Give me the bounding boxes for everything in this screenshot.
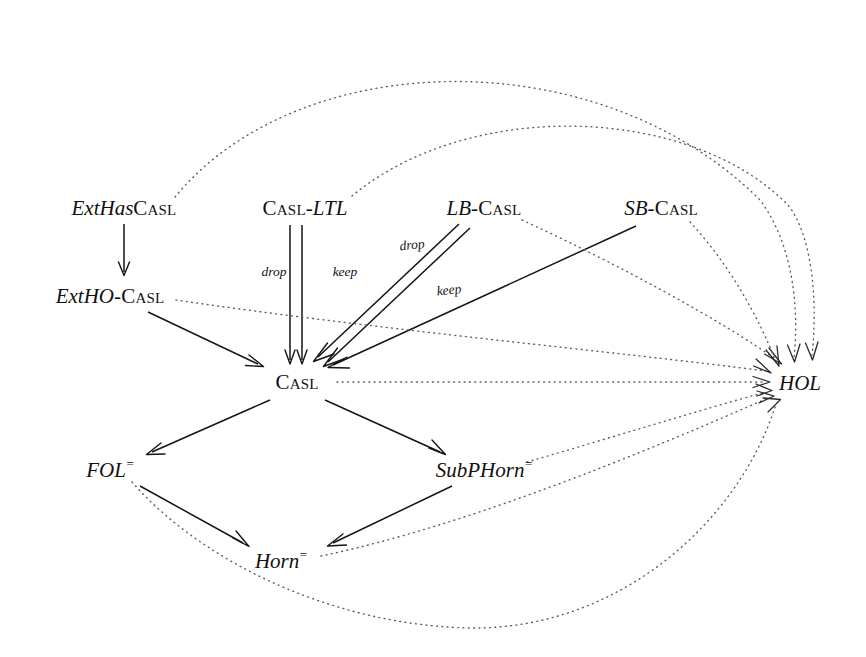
node-lb-casl-suffix: -Casl: [471, 196, 521, 220]
edge-subphorn-eq-to-hol: [527, 384, 772, 462]
edge-label-lb-casl-drop: drop: [399, 237, 425, 253]
edge-casl-ltl-keep-to-casl: [297, 225, 307, 364]
edge-ext-has-casl-to-ext-ho-casl: [119, 224, 130, 276]
node-sb-casl-suffix: -Casl: [647, 196, 697, 220]
edge-label-casl-ltl-drop: drop: [261, 265, 286, 279]
edge-casl-to-fol-eq: [147, 400, 271, 455]
edge-layer: [0, 0, 866, 657]
node-horn-eq-prefix: Horn: [255, 549, 299, 573]
edge-fol-eq-to-horn-eq: [140, 486, 249, 547]
node-lb-casl[interactable]: LB-Casl: [447, 198, 522, 219]
node-casl-ltl-suffix: -LTL: [306, 196, 348, 220]
node-sb-casl[interactable]: SB-Casl: [624, 198, 698, 219]
edge-casl-to-subphorn-eq: [325, 400, 446, 455]
node-ext-has-casl-suffix: Casl: [133, 196, 176, 220]
node-horn-eq-superscript: =: [300, 547, 307, 562]
node-ext-ho-casl-suffix: -Casl: [114, 284, 164, 308]
node-casl-ltl-prefix: Casl: [263, 196, 306, 220]
edge-ext-ho-casl-to-casl: [148, 312, 264, 367]
edge-fol-eq-to-hol: [132, 398, 781, 628]
node-casl[interactable]: Casl: [275, 372, 318, 393]
edge-casl-to-hol: [337, 377, 770, 388]
edge-lb-casl-to-hol: [522, 220, 782, 364]
node-lb-casl-prefix: LB: [447, 196, 472, 220]
edge-label-lb-casl-keep: keep: [436, 282, 462, 298]
edge-label-casl-ltl-keep: keep: [333, 265, 358, 279]
node-hol-prefix: HOL: [779, 371, 821, 395]
edge-casl-ltl-drop-to-casl: [285, 225, 295, 364]
diagram-canvas: ExtHasCasl Casl-LTL LB-Casl SB-Casl ExtH…: [0, 0, 866, 657]
edge-subphorn-eq-to-horn-eq: [328, 486, 453, 546]
node-ext-has-casl-prefix: ExtHas: [72, 196, 134, 220]
node-subphorn-eq[interactable]: SubPHorn=: [436, 457, 533, 481]
node-horn-eq[interactable]: Horn=: [255, 548, 307, 572]
node-subphorn-eq-prefix: SubPHorn: [436, 458, 525, 482]
node-ext-ho-casl-prefix: ExtHO: [56, 284, 114, 308]
node-fol-eq-superscript: =: [126, 456, 133, 471]
node-ext-ho-casl[interactable]: ExtHO-Casl: [56, 286, 165, 307]
edge-ext-ho-casl-to-hol: [176, 300, 771, 373]
node-fol-eq-prefix: FOL: [86, 458, 126, 482]
node-ext-has-casl[interactable]: ExtHasCasl: [72, 198, 177, 219]
node-casl-suffix: Casl: [275, 370, 318, 394]
node-subphorn-eq-superscript: =: [525, 456, 532, 471]
node-sb-casl-prefix: SB: [624, 196, 647, 220]
edge-sb-casl-to-hol: [690, 222, 779, 366]
node-casl-ltl[interactable]: Casl-LTL: [263, 198, 348, 219]
node-hol[interactable]: HOL: [779, 373, 821, 394]
edge-sb-casl-to-casl: [328, 226, 636, 368]
edge-horn-eq-to-hol: [321, 391, 774, 556]
edge-ext-has-casl-to-hol: [175, 81, 800, 362]
node-fol-eq[interactable]: FOL=: [86, 457, 134, 481]
